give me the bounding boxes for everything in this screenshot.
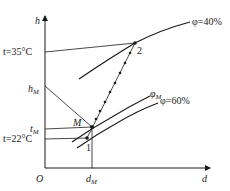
- origin-label: O: [36, 173, 43, 184]
- hM-label: hM: [28, 83, 40, 96]
- phi40-label: φ=40%: [192, 16, 222, 27]
- phi60-label: φ=60%: [160, 95, 190, 106]
- x-axis-label: d: [202, 173, 208, 184]
- y-axis-label: h: [35, 15, 40, 26]
- t35-label: t=35°C: [3, 46, 32, 57]
- phi-M-curve: [72, 96, 150, 142]
- point-M-label: M: [72, 117, 82, 128]
- point-1-label: 1: [86, 142, 91, 153]
- point-2-label: 2: [137, 45, 142, 56]
- point-1: [85, 136, 89, 140]
- isotherm-tM: [45, 127, 92, 129]
- enthalpy-line-hM: [45, 86, 92, 127]
- psychrometric-diagram: h d O t=35°C φ=40% 2 hM M tM t=22°C 1 dM…: [0, 0, 230, 191]
- dM-label: dM: [86, 173, 98, 186]
- phi-40-curve: [79, 22, 190, 79]
- t22-label: t=22°C: [3, 133, 32, 144]
- isotherm-22: [45, 138, 87, 139]
